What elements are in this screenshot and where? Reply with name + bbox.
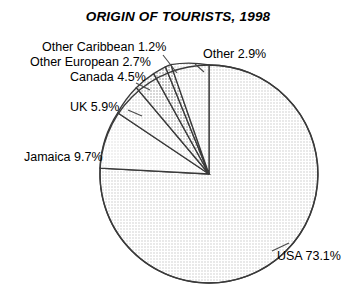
chart-title: ORIGIN OF TOURISTS, 1998 xyxy=(0,9,356,24)
pie-label-uk: UK 5.9% xyxy=(70,100,119,114)
pie-label-jamaica: Jamaica 9.7% xyxy=(24,150,103,164)
pie-label-other-caribbean: Other Caribbean 1.2% xyxy=(42,40,166,54)
pie-label-other: Other 2.9% xyxy=(203,47,266,61)
pie-label-canada: Canada 4.5% xyxy=(70,70,146,84)
pie-chart-figure: ORIGIN OF TOURISTS, 1998 xyxy=(0,0,356,296)
pie-label-usa: USA 73.1% xyxy=(277,249,341,263)
pie-label-other-european: Other European 2.7% xyxy=(30,55,151,69)
